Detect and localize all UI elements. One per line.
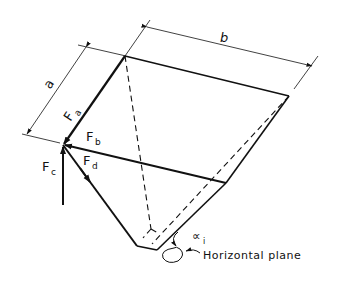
- dim-a-label: a: [40, 77, 57, 92]
- outlet-hidden-edge-2: [151, 229, 158, 233]
- dim-a-ext-bottom: [22, 134, 60, 143]
- force-a-arrow: [64, 56, 125, 144]
- hidden-edges: [125, 56, 289, 244]
- angle-label: ∝: [192, 229, 201, 243]
- outlet-hidden-edge: [143, 229, 151, 238]
- hopper-outline: [125, 56, 289, 250]
- force-d-sub: d: [92, 161, 98, 171]
- forces: [63, 56, 226, 246]
- plane-leader: [186, 250, 200, 253]
- force-d-arrow: [80, 168, 90, 182]
- angle-sub: i: [203, 237, 205, 246]
- dim-b-label: b: [220, 30, 228, 45]
- force-labels: F a F b F c F d: [42, 103, 101, 177]
- force-b-sub: b: [95, 137, 101, 147]
- dim-a-ext-top: [78, 45, 126, 56]
- back-left-hidden-edge: [125, 56, 151, 229]
- top-right-edge: [226, 96, 289, 183]
- dim-b-line: [147, 27, 312, 66]
- horizontal-plane-label: Horizontal plane: [203, 249, 301, 262]
- top-back-edge: [125, 56, 289, 96]
- horizontal-plane-symbol: [162, 247, 182, 262]
- dim-b-ext-right: [294, 56, 318, 89]
- hopper-diagram: a b F a F b F c F d ∝ i Horizon: [0, 0, 351, 281]
- force-c-sub: c: [51, 167, 56, 177]
- force-d-label: F: [83, 153, 90, 168]
- dim-b-ext-left: [125, 20, 150, 56]
- dim-a-line: [27, 47, 86, 134]
- force-c-label: F: [42, 159, 49, 174]
- outlet-bottom-edge: [137, 246, 157, 250]
- force-b-label: F: [86, 129, 93, 144]
